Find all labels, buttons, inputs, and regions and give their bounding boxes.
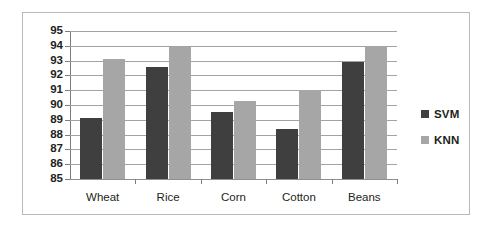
x-axis-label-corn: Corn [201, 191, 266, 203]
y-axis-tick-label: 88 [33, 129, 63, 141]
category-separator [332, 179, 333, 184]
bar-group [266, 31, 331, 179]
y-axis-tick-label: 87 [33, 143, 63, 155]
chart-legend: SVMKNN [421, 101, 487, 153]
bar-svm-rice [146, 67, 168, 179]
bar-knn-rice [169, 47, 191, 179]
y-axis-tick-label: 93 [33, 55, 63, 67]
y-axis-tick-labels: 9594939291908988878685 [23, 13, 63, 214]
y-axis-tick-label: 91 [33, 84, 63, 96]
legend-swatch-icon [421, 110, 429, 118]
y-axis-tick-label: 92 [33, 69, 63, 81]
x-axis-label-wheat: Wheat [70, 191, 135, 203]
category-separator [266, 179, 267, 184]
chart-frame: 9594939291908988878685 WheatRiceCornCott… [22, 12, 470, 215]
bar-svm-wheat [80, 118, 102, 179]
category-separator [201, 179, 202, 184]
bar-knn-wheat [103, 59, 125, 179]
bar-knn-cotton [299, 90, 321, 179]
x-axis-label-cotton: Cotton [266, 191, 331, 203]
y-axis-tick-label: 94 [33, 40, 63, 52]
bar-knn-beans [365, 46, 387, 179]
bar-svm-beans [342, 62, 364, 179]
y-axis-tick-label: 86 [33, 158, 63, 170]
plot-area: WheatRiceCornCottonBeans [70, 31, 397, 179]
y-axis-tick-label: 90 [33, 99, 63, 111]
legend-entry-svm: SVM [421, 101, 487, 127]
y-axis-tick-label: 89 [33, 114, 63, 126]
bar-group [70, 31, 135, 179]
y-axis-tick-label: 85 [33, 173, 63, 185]
chart-screenshot: 9594939291908988878685 WheatRiceCornCott… [0, 0, 493, 244]
category-separator [397, 179, 398, 184]
legend-label: SVM [434, 108, 460, 120]
bar-knn-corn [234, 101, 256, 179]
gridline [70, 179, 397, 180]
legend-entry-knn: KNN [421, 127, 487, 153]
category-separator [135, 179, 136, 184]
x-axis-label-rice: Rice [135, 191, 200, 203]
legend-label: KNN [434, 134, 460, 146]
bar-group [332, 31, 397, 179]
bar-svm-corn [211, 112, 233, 179]
x-axis-label-beans: Beans [332, 191, 397, 203]
bar-group [201, 31, 266, 179]
bar-group [135, 31, 200, 179]
legend-swatch-icon [421, 136, 429, 144]
bar-svm-cotton [276, 129, 298, 179]
y-axis-tick-label: 95 [33, 25, 63, 37]
